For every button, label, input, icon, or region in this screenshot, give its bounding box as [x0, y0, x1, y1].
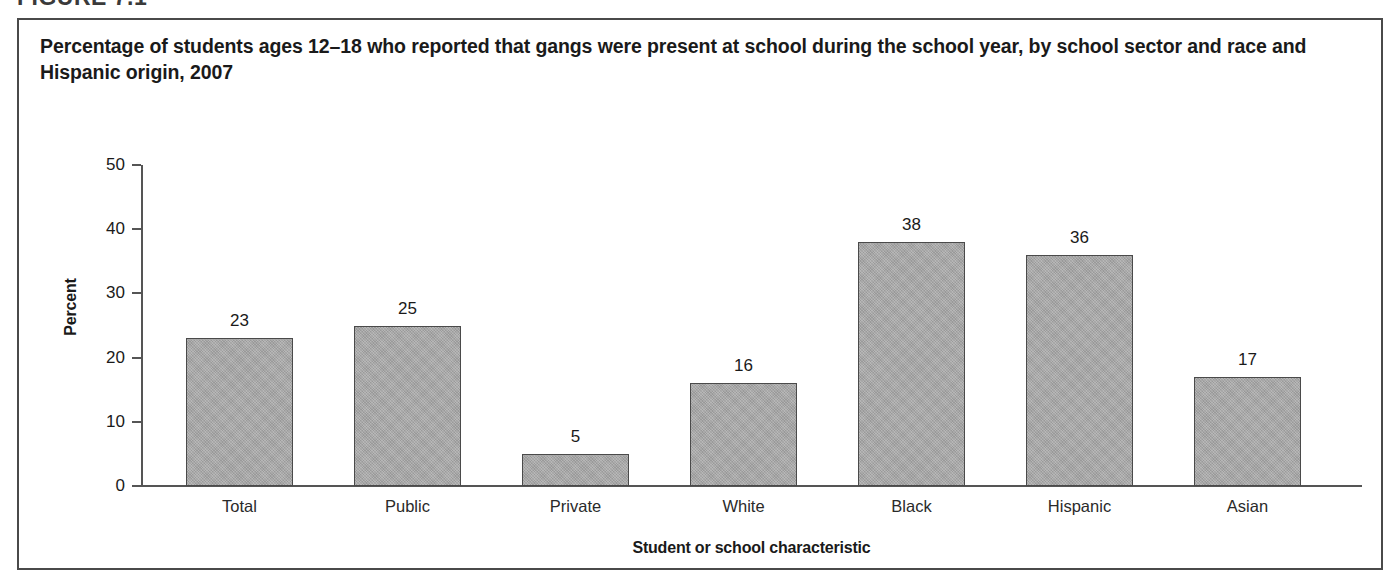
- x-axis-category-label: Asian: [1164, 497, 1331, 516]
- bar-value-label: 16: [690, 356, 797, 376]
- bar-value-label: 5: [522, 427, 629, 447]
- x-axis-category-label: Public: [324, 497, 491, 516]
- bar: [522, 454, 629, 486]
- y-axis-tick-label: 10: [85, 412, 125, 432]
- bar-value-label: 25: [354, 299, 461, 319]
- y-axis-tick: [132, 357, 141, 359]
- bar: [1194, 377, 1301, 486]
- y-axis-tick-label: 30: [85, 283, 125, 303]
- y-axis-line: [141, 165, 143, 486]
- y-axis-tick-label: 40: [85, 219, 125, 239]
- y-axis-title: Percent: [62, 247, 80, 367]
- y-axis-tick: [132, 164, 141, 166]
- bar: [690, 383, 797, 486]
- figure-number-header: FIGURE 7.1: [17, 0, 147, 11]
- bar: [858, 242, 965, 486]
- bar: [186, 338, 293, 486]
- bar-value-label: 17: [1194, 350, 1301, 370]
- bar-value-label: 38: [858, 215, 965, 235]
- x-axis-category-label: Private: [492, 497, 659, 516]
- x-axis-category-label: White: [660, 497, 827, 516]
- bar-value-label: 36: [1026, 228, 1133, 248]
- y-axis-tick-label: 20: [85, 348, 125, 368]
- y-axis-tick: [132, 421, 141, 423]
- x-axis-category-label: Total: [156, 497, 323, 516]
- x-axis-category-label: Hispanic: [996, 497, 1163, 516]
- x-axis-category-label: Black: [828, 497, 995, 516]
- bar-chart-plot-area: Percent Student or school characteristic…: [19, 20, 1385, 572]
- y-axis-tick-label: 0: [85, 476, 125, 496]
- x-axis-title: Student or school characteristic: [141, 539, 1362, 557]
- bar: [1026, 255, 1133, 486]
- bar: [354, 326, 461, 487]
- y-axis-tick-label: 50: [85, 155, 125, 175]
- figure-box: Percentage of students ages 12–18 who re…: [17, 18, 1383, 570]
- y-axis-tick: [132, 228, 141, 230]
- bar-value-label: 23: [186, 311, 293, 331]
- y-axis-tick: [132, 292, 141, 294]
- y-axis-tick: [132, 485, 141, 487]
